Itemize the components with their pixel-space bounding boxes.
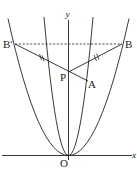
x-axis-label: x	[131, 150, 136, 160]
point-label-o: O	[60, 157, 68, 169]
point-label-a: A	[88, 78, 96, 90]
parabola-diagram: y x B' B P A O	[0, 0, 137, 173]
point-label-p: P	[60, 71, 66, 83]
y-axis-label: y	[65, 9, 70, 19]
segment-bprime-a	[15, 44, 88, 81]
point-label-b: B	[125, 38, 132, 50]
point-label-bprime: B'	[3, 38, 12, 50]
